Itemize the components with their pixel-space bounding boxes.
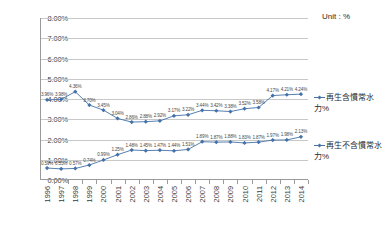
data-point-marker[interactable] (115, 116, 119, 120)
data-point-marker[interactable] (158, 148, 162, 152)
data-point-label: 1.87% (210, 135, 222, 140)
data-point-label: 2.13% (295, 129, 307, 134)
x-axis-tick (195, 180, 196, 184)
data-point-marker[interactable] (73, 166, 77, 170)
x-axis-tick-label: 1999 (85, 186, 94, 202)
data-point-marker[interactable] (200, 108, 204, 112)
data-point-marker[interactable] (228, 109, 232, 113)
data-point-label: 3.42% (210, 103, 222, 108)
data-point-label: 1.48% (126, 143, 138, 148)
data-point-label: 3.22% (182, 107, 194, 112)
data-point-label: 4.36% (69, 84, 81, 89)
data-point-marker[interactable] (130, 148, 134, 152)
data-point-marker[interactable] (228, 140, 232, 144)
data-point-marker[interactable] (172, 149, 176, 153)
x-axis-tick-label: 1998 (71, 186, 80, 202)
x-axis-tick (111, 180, 112, 184)
data-point-label: 1.87% (252, 135, 264, 140)
legend-item-renewable-excl-hydro[interactable]: 再生不含慣常水力% (314, 140, 384, 163)
x-axis-tick-label: 1996 (43, 186, 52, 202)
data-point-label: 3.96% (41, 92, 53, 97)
data-point-marker[interactable] (299, 92, 303, 96)
data-point-marker[interactable] (158, 119, 162, 123)
legend-line-icon (314, 94, 325, 101)
data-point-label: 1.44% (168, 143, 180, 148)
data-point-label: 4.21% (281, 87, 293, 92)
data-point-label: 2.92% (154, 113, 166, 118)
x-axis-tick-label: 2002 (128, 186, 137, 202)
data-point-label: 1.47% (154, 143, 166, 148)
data-point-marker[interactable] (242, 141, 246, 145)
data-point-marker[interactable] (115, 153, 119, 157)
x-axis-tick-label: 2008 (212, 186, 221, 202)
data-point-label: 4.24% (295, 87, 307, 92)
data-point-label: 1.51% (182, 142, 194, 147)
x-axis-tick (308, 180, 309, 184)
x-axis-tick-label: 2011 (255, 186, 264, 202)
series-lines (40, 18, 308, 180)
data-point-label: 0.57% (69, 161, 81, 166)
data-point-marker[interactable] (144, 149, 148, 153)
data-point-marker[interactable] (130, 120, 134, 124)
x-axis-tick (68, 180, 69, 184)
data-point-label: 1.88% (224, 134, 236, 139)
data-point-label: 3.98% (55, 92, 67, 97)
data-point-marker[interactable] (101, 158, 105, 162)
data-point-marker[interactable] (242, 107, 246, 111)
data-point-marker[interactable] (144, 120, 148, 124)
plot-area: 3.96%3.98%4.36%3.70%3.45%3.04%2.86%2.88%… (40, 18, 308, 180)
data-point-marker[interactable] (59, 97, 63, 101)
x-axis-tick (181, 180, 182, 184)
x-axis-tick (280, 180, 281, 184)
x-axis-tick-label: 2010 (241, 186, 250, 202)
data-point-label: 3.17% (168, 108, 180, 113)
x-axis-tick (82, 180, 83, 184)
x-axis-tick (266, 180, 267, 184)
x-axis-tick (167, 180, 168, 184)
data-point-label: 3.45% (97, 103, 109, 108)
data-point-marker[interactable] (214, 140, 218, 144)
data-point-marker[interactable] (200, 140, 204, 144)
data-point-marker[interactable] (285, 138, 289, 142)
legend-line-icon (314, 142, 325, 149)
x-axis-tick-label: 2001 (114, 186, 123, 202)
data-point-marker[interactable] (299, 135, 303, 139)
data-point-marker[interactable] (285, 93, 289, 97)
x-axis-tick-label: 2004 (156, 186, 165, 202)
x-axis-tick (237, 180, 238, 184)
data-point-marker[interactable] (45, 166, 49, 170)
data-point-label: 3.52% (238, 101, 250, 106)
data-point-label: 2.86% (126, 115, 138, 120)
data-point-label: 1.25% (111, 147, 123, 152)
data-point-label: 1.89% (196, 134, 208, 139)
data-point-label: 0.59% (41, 161, 53, 166)
x-axis-tick-label: 2003 (142, 186, 151, 202)
data-point-marker[interactable] (45, 98, 49, 102)
data-point-marker[interactable] (101, 108, 105, 112)
data-point-marker[interactable] (87, 163, 91, 167)
data-point-label: 0.74% (83, 158, 95, 163)
data-point-label: 1.97% (267, 133, 279, 138)
x-axis-tick-label: 2006 (184, 186, 193, 202)
data-point-marker[interactable] (214, 109, 218, 113)
data-point-marker[interactable] (59, 167, 63, 171)
x-axis-labels: 1996199719981999200020012002200320042005… (40, 180, 308, 226)
x-axis-tick (96, 180, 97, 184)
data-point-marker[interactable] (257, 140, 261, 144)
legend-item-renewable-incl-hydro[interactable]: 再生含慣常水力% (314, 92, 384, 115)
x-axis-tick-label: 2012 (269, 186, 278, 202)
x-axis-tick (294, 180, 295, 184)
x-axis-tick-label: 2014 (297, 186, 306, 202)
data-point-label: 3.38% (224, 104, 236, 109)
data-point-marker[interactable] (186, 113, 190, 117)
data-point-marker[interactable] (172, 114, 176, 118)
x-axis-tick-label: 2000 (99, 186, 108, 202)
data-point-label: 4.17% (267, 88, 279, 93)
x-axis-tick (54, 180, 55, 184)
x-axis-tick-label: 2005 (170, 186, 179, 202)
data-point-marker[interactable] (271, 138, 275, 142)
data-point-label: 2.88% (140, 114, 152, 119)
data-point-marker[interactable] (186, 147, 190, 151)
x-axis-tick (252, 180, 253, 184)
